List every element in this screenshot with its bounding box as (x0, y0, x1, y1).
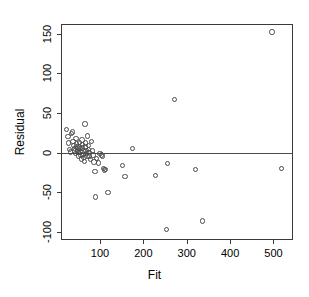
x-tick-label: 500 (264, 248, 282, 259)
data-point (269, 29, 274, 34)
data-point (193, 167, 198, 172)
x-tick-label: 400 (221, 248, 239, 259)
y-tick-label: 150 (42, 24, 53, 42)
y-tick-label: 50 (42, 107, 53, 119)
data-point (70, 129, 75, 134)
x-tick (143, 240, 144, 244)
x-tick (230, 240, 231, 244)
zero-reference-line (61, 153, 293, 154)
data-point (82, 159, 87, 164)
y-tick (57, 34, 61, 35)
data-point (92, 169, 97, 174)
data-point (103, 167, 108, 172)
y-tick (57, 113, 61, 114)
data-point (85, 133, 90, 138)
data-point (122, 174, 127, 179)
y-axis-title: Residual (13, 109, 27, 156)
y-tick-label: 100 (42, 64, 53, 82)
y-tick-label: -50 (42, 184, 53, 200)
y-tick-label: -100 (42, 221, 53, 243)
y-tick (57, 73, 61, 74)
data-point (100, 153, 105, 158)
y-tick-label: 0 (42, 150, 53, 156)
plot-frame (61, 24, 293, 240)
y-tick (57, 153, 61, 154)
x-tick (100, 240, 101, 244)
y-tick (57, 192, 61, 193)
x-axis-title: Fit (0, 268, 309, 282)
data-point (200, 218, 205, 223)
data-point (96, 160, 101, 165)
x-tick (187, 240, 188, 244)
x-tick (273, 240, 274, 244)
x-tick-label: 200 (134, 248, 152, 259)
x-tick-label: 100 (91, 248, 109, 259)
residual-plot: 100200300400500 -100-50050100150 Fit Res… (0, 0, 309, 297)
x-tick-label: 300 (178, 248, 196, 259)
y-tick (57, 232, 61, 233)
data-point (82, 121, 87, 126)
data-point (105, 190, 110, 195)
